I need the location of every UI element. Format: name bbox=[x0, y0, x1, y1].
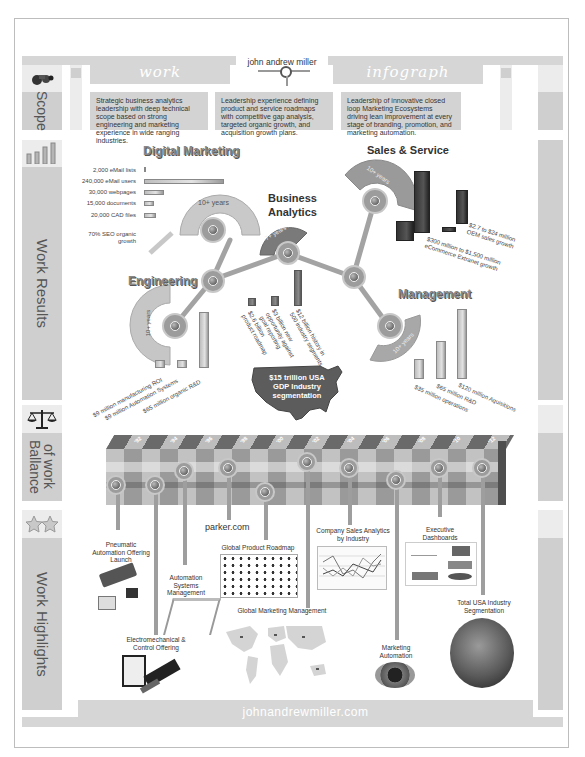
pin-head-automation-systems bbox=[174, 461, 194, 481]
digital-marketing-years: 10+ years bbox=[198, 199, 229, 206]
management-title: Management bbox=[398, 287, 471, 301]
highlight-electromechanical-label: Electromechanical & Control Offering bbox=[118, 636, 194, 651]
pin-stem-electromechanical bbox=[154, 490, 158, 635]
highlight-global-marketing-label: Global Marketing Management bbox=[232, 607, 332, 615]
sidebar-icon-cell-scope bbox=[22, 65, 62, 92]
bar-chart-icon bbox=[25, 142, 59, 164]
scope-box-2: Leadership experience defining product a… bbox=[215, 92, 333, 130]
dm-metric-4-bar bbox=[144, 201, 154, 206]
usa-segmentation-globe bbox=[450, 618, 514, 688]
engineering-title: Engineering bbox=[128, 274, 197, 288]
dm-metric-1-label: 2,000 eMail lists bbox=[90, 167, 136, 174]
scope-box-1: Strategic business analytics leadership … bbox=[90, 92, 208, 130]
world-map-icon bbox=[222, 618, 332, 690]
sidebar-label-work-results: Work Results bbox=[22, 167, 62, 400]
usa-map-label: $15 trillion USA GDP Industry segmentati… bbox=[262, 373, 332, 400]
sales-service-title: Sales & Service bbox=[367, 144, 449, 156]
sidebar-label-balance: Ballance of work bbox=[22, 433, 62, 501]
scales-icon bbox=[26, 408, 58, 430]
pin-head-pneumatic bbox=[106, 475, 126, 495]
marketing-automation-image bbox=[375, 662, 415, 688]
right-sidebar-cell-8 bbox=[538, 538, 563, 710]
balance-band-side bbox=[498, 441, 506, 505]
pin-stem-marketing-automation bbox=[395, 485, 399, 640]
pin-stem-global-marketing bbox=[306, 468, 310, 608]
business-analytics-title-1: Business bbox=[268, 192, 317, 204]
binoculars-icon bbox=[30, 72, 54, 86]
pin-head-marketing-automation bbox=[386, 470, 406, 490]
business-analytics-title-2: Analytics bbox=[268, 206, 317, 218]
sidebar-spacer-scope-top bbox=[71, 68, 81, 78]
right-sidebar-cell-6 bbox=[538, 433, 563, 501]
node-digital-marketing bbox=[200, 217, 226, 243]
balance-label-line2: of work bbox=[42, 444, 56, 489]
header-tab-infograph-label: infograph bbox=[333, 63, 483, 81]
highlight-pneumatic-image bbox=[96, 566, 144, 612]
pin-stem-pneumatic bbox=[116, 490, 120, 530]
highlight-electromechanical-image bbox=[122, 653, 184, 693]
highlight-roadmap-label: Global Product Roadmap bbox=[218, 544, 298, 552]
balance-label-line1: Ballance bbox=[28, 440, 42, 494]
right-sidebar-cell-5 bbox=[538, 405, 563, 433]
pin-stem-usa-segmentation bbox=[481, 475, 485, 595]
pin-head-sales-analytics bbox=[339, 458, 359, 478]
footer-url[interactable]: johnandrewmiller.com bbox=[78, 705, 533, 719]
ss-bar-1 bbox=[396, 221, 414, 241]
dm-metric-1-bar bbox=[144, 167, 146, 172]
eng-bar-2 bbox=[177, 360, 187, 368]
dm-metric-2-bar bbox=[144, 179, 224, 184]
scope-box-3: Leadership of innovative closed loop Mar… bbox=[341, 92, 461, 130]
highlight-usa-segmentation-label: Total USA Industry Segmentation bbox=[452, 599, 516, 614]
ss-bar-4 bbox=[456, 190, 468, 224]
right-sidebar-cell-7 bbox=[538, 510, 563, 538]
ba-bar-1 bbox=[248, 298, 256, 306]
dm-metric-3-label: 30,000 webpages bbox=[78, 189, 136, 196]
header-tab-work-label: work bbox=[90, 63, 230, 81]
right-sidebar-cell-1-top bbox=[501, 68, 511, 78]
node-management bbox=[377, 313, 403, 339]
node-management-junction bbox=[342, 265, 366, 289]
pin-stem-sales-analytics bbox=[348, 475, 352, 525]
mgmt-bar-1 bbox=[414, 359, 424, 379]
eng-bar-3 bbox=[199, 312, 209, 368]
highlight-pneumatic-label: Pneumatic Automation Offering Launch bbox=[90, 541, 152, 564]
highlight-dashboards-label: Executive Dashboards bbox=[418, 526, 462, 541]
node-sales-service bbox=[362, 188, 388, 214]
node-engineering bbox=[162, 313, 188, 339]
dm-metric-4-label: 15,000 documents bbox=[78, 200, 136, 207]
engineering-years: 10+ years bbox=[145, 310, 151, 337]
ss-bar-2 bbox=[414, 171, 430, 233]
mgmt-bar-3 bbox=[457, 309, 467, 379]
stars-icon bbox=[25, 515, 59, 533]
right-sidebar-cell-3 bbox=[538, 92, 563, 130]
highlight-parker-label: parker.com bbox=[205, 522, 250, 532]
highlight-marketing-automation-label: Marketing Automation bbox=[372, 644, 420, 659]
dm-metric-5-bar bbox=[144, 213, 156, 218]
dm-metric-5-label: 20,000 CAD files bbox=[78, 212, 136, 219]
highlight-roadmap-image bbox=[220, 554, 298, 598]
pin-stem-automation-systems bbox=[183, 480, 187, 565]
pin-head-usa-segmentation bbox=[472, 458, 492, 478]
dm-metric-3-bar bbox=[144, 190, 164, 195]
sidebar-label-work-highlights: Work Highlights bbox=[22, 538, 62, 710]
sales-analytics-chart-image bbox=[317, 546, 387, 590]
sidebar-icon-cell-balance bbox=[22, 405, 62, 433]
ba-bar-2 bbox=[271, 296, 279, 306]
node-engineering-junction bbox=[201, 269, 225, 293]
pin-head-dashboards bbox=[429, 458, 449, 478]
pin-head-parker bbox=[218, 458, 238, 478]
dashboards-image bbox=[405, 542, 477, 586]
ss-bar-3 bbox=[442, 227, 456, 232]
sidebar-icon-cell-results bbox=[22, 140, 62, 167]
header-center-title: john andrew miller bbox=[236, 57, 328, 67]
highlight-sales-analytics-label: Company Sales Analytics by Industry bbox=[316, 527, 390, 542]
right-sidebar-cell-4 bbox=[538, 140, 563, 400]
eng-bar-1 bbox=[155, 360, 165, 368]
mgmt-bar-2 bbox=[436, 341, 446, 379]
ba-bar-3 bbox=[294, 270, 302, 306]
right-sidebar-cell-2 bbox=[538, 65, 563, 92]
dm-seo-label: 70% SEO organic growth bbox=[84, 231, 136, 245]
pin-head-global-marketing bbox=[297, 452, 317, 472]
highlight-automation-systems-label: Automation Systems Management bbox=[165, 574, 207, 597]
pin-stem-parker bbox=[227, 475, 231, 520]
